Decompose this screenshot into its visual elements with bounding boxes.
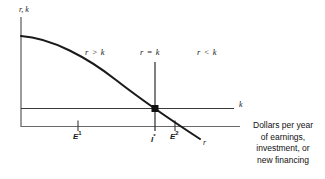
intersection-marker <box>152 105 159 112</box>
region-label-r-equals-k: r = k <box>140 48 160 57</box>
r-curve-label: r <box>203 139 206 147</box>
caption-line-1: Dollars per year <box>243 120 323 132</box>
caption-line-2: of earnings, <box>243 132 323 144</box>
tick-label-e2: E2 <box>170 133 179 141</box>
tick-label-istar-exponent: * <box>153 133 155 139</box>
y-axis-label: r, k <box>19 6 29 14</box>
k-axis-label: k <box>239 101 243 109</box>
tick-label-e2-exponent: 2 <box>175 130 178 136</box>
tick-label-e1: E1 <box>73 133 82 141</box>
tick-label-istar: I* <box>151 136 156 144</box>
tick-label-e1-exponent: 1 <box>78 130 81 136</box>
r-curve <box>21 36 200 139</box>
region-label-r-greater-k: r > k <box>85 48 105 57</box>
region-label-r-less-k: r < k <box>197 48 217 57</box>
economics-diagram-figure: r, k k r r > k r = k r < k E1 I* E2 Doll… <box>0 0 325 179</box>
caption-line-4: new financing <box>243 155 323 167</box>
caption-line-3: investment, or <box>243 143 323 155</box>
x-axis-caption: Dollars per year of earnings, investment… <box>243 120 323 166</box>
